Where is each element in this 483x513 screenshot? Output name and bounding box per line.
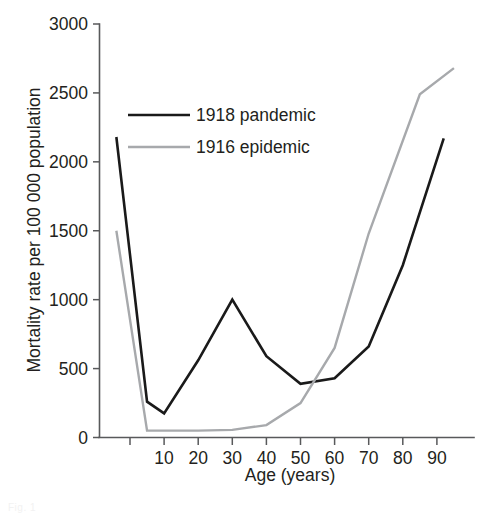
x-tick-label: 70 (359, 448, 379, 468)
y-axis-title: Mortality rate per 100 000 population (24, 87, 44, 372)
legend-label-2: 1916 epidemic (196, 137, 310, 157)
x-tick-label: 30 (223, 448, 243, 468)
x-axis-title: Age (years) (245, 465, 335, 485)
y-tick-label: 500 (59, 359, 88, 379)
caption-sliver: Fig. 1 (8, 502, 36, 513)
figure-container: 050010001500200025003000 Mortality rate … (0, 0, 483, 513)
y-tick-label: 2000 (49, 152, 88, 172)
y-tick-label: 0 (78, 428, 88, 448)
y-tick-label: 3000 (49, 14, 88, 34)
y-tick-label: 2500 (49, 83, 88, 103)
chart-background (0, 0, 483, 513)
y-tick-label: 1000 (49, 290, 88, 310)
mortality-rate-line-chart: 050010001500200025003000 Mortality rate … (0, 0, 483, 513)
y-tick-label: 1500 (49, 221, 88, 241)
x-tick-label: 20 (188, 448, 208, 468)
legend-label-1: 1918 pandemic (196, 105, 316, 125)
x-tick-label: 90 (427, 448, 447, 468)
x-tick-label: 10 (154, 448, 174, 468)
x-tick-label: 80 (393, 448, 413, 468)
